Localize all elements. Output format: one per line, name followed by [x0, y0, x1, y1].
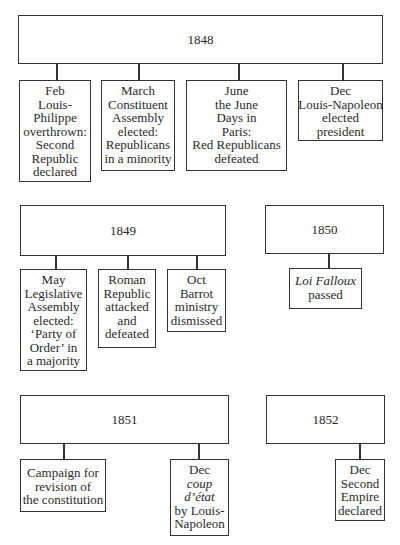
event-text: by Louis- [174, 504, 224, 518]
connector [198, 443, 200, 459]
event-box-1852-second-empire: Dec Second Empire declared [335, 459, 385, 521]
connector [359, 443, 361, 459]
event-text: Dec [330, 84, 351, 98]
year-box-1848: 1848 [18, 15, 383, 64]
event-text: March [121, 84, 155, 98]
event-text: attacked [105, 300, 148, 314]
event-text: Feb [45, 84, 65, 98]
event-text: elected: [118, 125, 158, 139]
event-text: Loi Falloux [295, 274, 356, 288]
event-text: Philippe [33, 111, 76, 125]
event-text: Legislative [25, 287, 83, 301]
event-box-1850-loi-falloux: Loi Falloux passed [289, 268, 362, 309]
event-text: and [118, 314, 137, 328]
event-text: Order’ in [30, 341, 78, 355]
year-label: 1848 [188, 33, 214, 47]
event-text: Second [341, 477, 379, 491]
event-box-1848-june: June the June Days in Paris: Red Republi… [186, 80, 287, 171]
event-text: Dec [350, 463, 371, 477]
year-box-1851: 1851 [20, 395, 229, 444]
event-text: declared [33, 165, 77, 179]
connector [138, 63, 140, 80]
event-text: dismissed [171, 314, 222, 328]
year-label: 1849 [110, 224, 136, 238]
event-text: Republicans [106, 138, 170, 152]
event-box-1849-roman: Roman Republic attacked and defeated [98, 269, 156, 348]
event-text: Second [36, 138, 74, 152]
event-text: Days in [216, 111, 256, 125]
year-box-1850: 1850 [265, 205, 384, 254]
event-text: Louis-Napoleon [298, 98, 382, 112]
event-box-1851-coup: Dec coup d’état by Louis- Napoleon [170, 459, 229, 536]
connector [56, 63, 58, 80]
event-text: Assembly [28, 300, 80, 314]
year-label: 1851 [112, 413, 138, 427]
year-label: 1852 [313, 413, 339, 427]
year-box-1852: 1852 [266, 395, 385, 444]
connector [55, 255, 57, 269]
event-text: Empire [341, 490, 379, 504]
event-box-1849-oct: Oct Barrot ministry dismissed [167, 269, 226, 332]
event-text: elected [322, 111, 359, 125]
event-text: elected: [33, 314, 73, 328]
event-text: ‘Party of [31, 327, 77, 341]
event-box-1848-dec: Dec Louis-Napoleon elected president [298, 80, 383, 141]
event-text: the June [215, 98, 258, 112]
year-label: 1850 [312, 223, 338, 237]
event-text: Assembly [112, 111, 164, 125]
event-text: overthrown: [23, 125, 87, 139]
connector [63, 443, 65, 459]
event-box-1848-march: March Constituent Assembly elected: Repu… [101, 80, 175, 171]
event-text: Paris: [222, 125, 252, 139]
event-text: Louis- [38, 98, 72, 112]
connector [328, 253, 330, 268]
event-box-1849-may: May Legislative Assembly elected: ‘Party… [20, 269, 87, 371]
event-text: passed [308, 288, 343, 302]
connector [127, 255, 129, 269]
event-text: Oct [187, 273, 206, 287]
year-box-1849: 1849 [20, 205, 226, 256]
connector [238, 63, 240, 80]
event-text: declared [338, 504, 382, 518]
event-text: the constitution [23, 493, 104, 507]
event-text: Barrot [180, 287, 213, 301]
event-text: Campaign for [27, 466, 99, 480]
event-text: Republic [32, 152, 79, 166]
event-text: Constituent [108, 98, 168, 112]
event-text: Dec [189, 463, 210, 477]
event-text: Roman [108, 273, 146, 287]
event-text: revision of [35, 480, 91, 494]
connector [342, 63, 344, 80]
event-text: coup [187, 477, 212, 491]
event-text: Napoleon [174, 517, 225, 531]
event-text: d’état [184, 490, 214, 504]
event-text: in a minority [104, 152, 171, 166]
event-text: June [225, 84, 249, 98]
event-box-1848-feb: Feb Louis- Philippe overthrown: Second R… [19, 80, 91, 182]
event-text: May [42, 273, 66, 287]
event-text: president [317, 125, 365, 139]
event-text: defeated [105, 327, 149, 341]
event-text: ministry [175, 300, 218, 314]
event-text: Red Republicans [192, 138, 280, 152]
connector [196, 255, 198, 269]
event-box-1851-campaign: Campaign for revision of the constitutio… [20, 459, 106, 512]
event-text: defeated [214, 152, 258, 166]
event-text: a majority [27, 354, 80, 368]
event-text: Republic [104, 287, 151, 301]
